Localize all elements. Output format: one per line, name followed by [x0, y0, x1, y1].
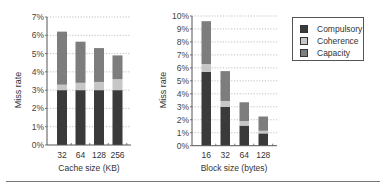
figure: Miss rate 0%1%2%3%4%5%6%7% 3264128256 Ca…	[0, 0, 380, 189]
right-bar-16-coherence	[202, 64, 212, 72]
right-y-tick-label: 10%	[165, 11, 189, 21]
left-bar-32-coherence	[57, 85, 67, 90]
right-y-tick-label: 5%	[165, 76, 189, 86]
right-bar-16-capacity	[202, 21, 212, 64]
bottom-divider	[6, 181, 380, 182]
left-y-tick-label: 5%	[20, 49, 44, 59]
compulsory-swatch-icon	[300, 25, 308, 33]
capacity-swatch-icon	[300, 49, 308, 57]
left-bar-64-compulsory	[76, 90, 86, 145]
left-bar-32-capacity	[57, 32, 67, 85]
left-x-tick-label: 256	[106, 150, 130, 160]
left-y-tick-label: 1%	[20, 122, 44, 132]
left-bar-64-capacity	[76, 42, 86, 83]
right-y-tick-label: 3%	[165, 102, 189, 112]
right-bar-64-coherence	[240, 121, 250, 126]
right-y-tick-label: 8%	[165, 37, 189, 47]
left-bar-128-capacity	[94, 48, 104, 82]
left-x-axis-title: Cache size (KB)	[58, 163, 119, 173]
right-y-tick-label: 6%	[165, 63, 189, 73]
legend: Compulsory Coherence Capacity	[292, 17, 364, 61]
right-bar-128-compulsory	[259, 133, 269, 145]
left-bar-128-compulsory	[94, 90, 104, 145]
right-bar-128-capacity	[259, 117, 269, 131]
right-x-tick-label: 128	[251, 150, 275, 160]
legend-item-compulsory: Compulsory	[300, 24, 362, 34]
left-bar-256-compulsory	[113, 90, 123, 145]
right-bar-64-capacity	[240, 102, 250, 121]
right-y-tick-label: 1%	[165, 128, 189, 138]
coherence-swatch-icon	[300, 37, 308, 45]
left-bar-32-compulsory	[57, 90, 67, 145]
left-bar-64-coherence	[76, 83, 86, 90]
left-bar-256-coherence	[113, 79, 123, 90]
right-bar-64-compulsory	[240, 126, 250, 146]
right-bar-32-compulsory	[221, 107, 231, 146]
right-bar-32-capacity	[221, 71, 231, 101]
left-y-tick-label: 7%	[20, 12, 44, 22]
left-y-tick-label: 3%	[20, 85, 44, 95]
legend-item-capacity: Capacity	[300, 48, 350, 58]
legend-item-coherence: Coherence	[300, 36, 359, 46]
right-y-tick-label: 4%	[165, 89, 189, 99]
right-y-tick-label: 0%	[165, 141, 189, 151]
left-y-tick-label: 2%	[20, 103, 44, 113]
right-y-tick-label: 7%	[165, 50, 189, 60]
right-x-axis-title: Block size (bytes)	[201, 163, 268, 173]
left-bar-256-capacity	[113, 55, 123, 79]
right-bar-16-compulsory	[202, 72, 212, 146]
left-y-tick-label: 6%	[20, 30, 44, 40]
right-bar-128-coherence	[259, 131, 269, 134]
right-y-tick-label: 9%	[165, 24, 189, 34]
right-y-tick-label: 2%	[165, 115, 189, 125]
left-y-tick-label: 4%	[20, 67, 44, 77]
right-bar-32-coherence	[221, 101, 231, 107]
left-bar-128-coherence	[94, 82, 104, 90]
left-y-tick-label: 0%	[20, 140, 44, 150]
